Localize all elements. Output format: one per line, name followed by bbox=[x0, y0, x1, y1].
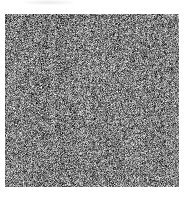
noise-image bbox=[5, 14, 179, 187]
faint-smudge bbox=[24, 0, 74, 5]
noise-canvas bbox=[5, 14, 179, 187]
page bbox=[0, 0, 190, 198]
